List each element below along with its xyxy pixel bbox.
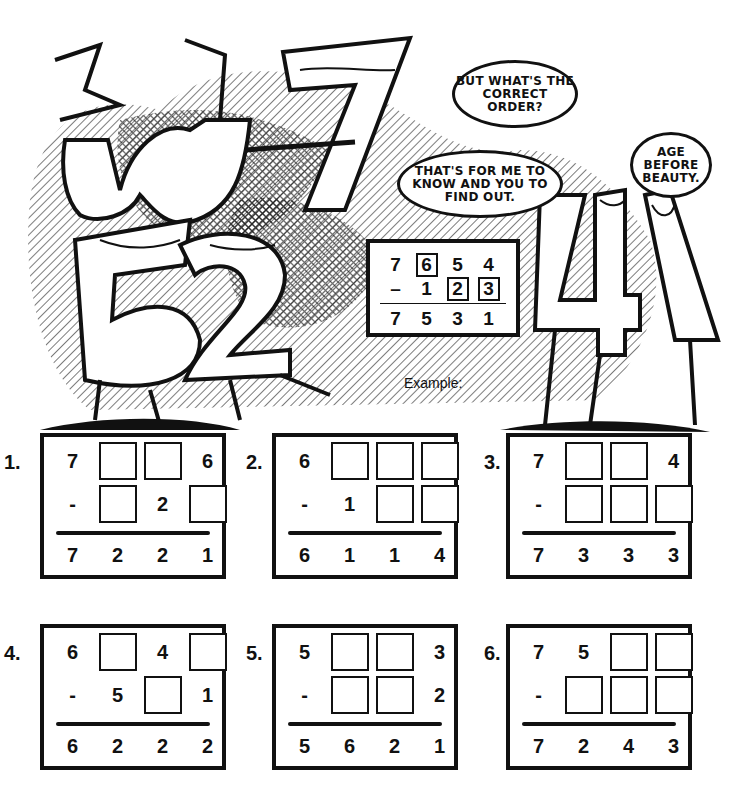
digit: 7 bbox=[516, 535, 561, 575]
puzzle-box-2: 6-16114 bbox=[272, 433, 458, 579]
blank-square[interactable] bbox=[421, 442, 459, 480]
digit: 5 bbox=[95, 675, 140, 715]
digit: 6 bbox=[50, 632, 95, 672]
answer-box[interactable] bbox=[327, 675, 372, 715]
blank-square[interactable] bbox=[376, 442, 414, 480]
digit: 7 bbox=[516, 726, 561, 766]
result-row: 7243 bbox=[516, 726, 696, 766]
blank-square[interactable] bbox=[376, 485, 414, 523]
digit: 6 bbox=[185, 441, 230, 481]
puzzle-number: 1. bbox=[4, 451, 21, 474]
result-row: 6222 bbox=[50, 726, 230, 766]
puzzle-number: 6. bbox=[484, 642, 501, 665]
answer-box[interactable] bbox=[651, 484, 696, 524]
digit: 6 bbox=[327, 726, 372, 766]
digit: 3 bbox=[651, 726, 696, 766]
blank-square[interactable] bbox=[331, 676, 369, 714]
example-digit-boxed: 2 bbox=[442, 277, 473, 301]
answer-box[interactable] bbox=[606, 441, 651, 481]
speech-bubble-correct-order: But what's the correct order? bbox=[452, 60, 578, 128]
minuend-row: 76 bbox=[50, 441, 230, 481]
answer-box[interactable] bbox=[372, 441, 417, 481]
answer-box[interactable] bbox=[606, 675, 651, 715]
blank-square[interactable] bbox=[189, 633, 227, 671]
example-row-top: 7 6 5 4 bbox=[380, 253, 506, 277]
digit: 2 bbox=[95, 726, 140, 766]
answer-box[interactable] bbox=[372, 484, 417, 524]
minuend-row: 64 bbox=[50, 632, 230, 672]
blank-square[interactable] bbox=[189, 485, 227, 523]
answer-box[interactable] bbox=[185, 484, 230, 524]
example-row-result: 7 5 3 1 bbox=[380, 307, 506, 331]
digit: 6 bbox=[282, 535, 327, 575]
blank-square[interactable] bbox=[610, 676, 648, 714]
blank-square[interactable] bbox=[421, 485, 459, 523]
blank-square[interactable] bbox=[565, 676, 603, 714]
answer-box[interactable] bbox=[417, 441, 462, 481]
digit: 4 bbox=[606, 726, 651, 766]
blank-square[interactable] bbox=[655, 633, 693, 671]
answer-box[interactable] bbox=[140, 675, 185, 715]
blank-square[interactable] bbox=[144, 442, 182, 480]
blank-square[interactable] bbox=[565, 485, 603, 523]
digit: 2 bbox=[95, 535, 140, 575]
digit: 1 bbox=[372, 535, 417, 575]
blank-square[interactable] bbox=[144, 676, 182, 714]
digit: 3 bbox=[561, 535, 606, 575]
example-digit-boxed: 3 bbox=[473, 277, 504, 301]
puzzle-box-4: 64-516222 bbox=[40, 624, 226, 770]
blank-square[interactable] bbox=[655, 485, 693, 523]
example-digit: 4 bbox=[473, 254, 504, 276]
blank-square[interactable] bbox=[376, 676, 414, 714]
answer-box[interactable] bbox=[140, 441, 185, 481]
digit: 7 bbox=[516, 632, 561, 672]
blank-square[interactable] bbox=[565, 442, 603, 480]
example-digit: 5 bbox=[442, 254, 473, 276]
blank-square[interactable] bbox=[610, 633, 648, 671]
answer-box[interactable] bbox=[417, 484, 462, 524]
blank-square[interactable] bbox=[99, 485, 137, 523]
blank-square[interactable] bbox=[655, 676, 693, 714]
blank-square[interactable] bbox=[99, 442, 137, 480]
digit: 3 bbox=[417, 632, 462, 672]
result-row: 7333 bbox=[516, 535, 696, 575]
blank-square[interactable] bbox=[331, 633, 369, 671]
minus-sign: - bbox=[282, 484, 327, 524]
puzzle-box-6: 75-7243 bbox=[506, 624, 692, 770]
answer-box[interactable] bbox=[561, 675, 606, 715]
answer-box[interactable] bbox=[95, 441, 140, 481]
blank-square[interactable] bbox=[331, 442, 369, 480]
answer-box[interactable] bbox=[95, 484, 140, 524]
digit: 2 bbox=[185, 726, 230, 766]
answer-box[interactable] bbox=[327, 632, 372, 672]
example-label: Example: bbox=[404, 375, 462, 391]
digit: 5 bbox=[561, 632, 606, 672]
answer-box[interactable] bbox=[185, 632, 230, 672]
digit: 7 bbox=[50, 535, 95, 575]
answer-box[interactable] bbox=[606, 632, 651, 672]
blank-square[interactable] bbox=[99, 633, 137, 671]
answer-box[interactable] bbox=[327, 441, 372, 481]
answer-box[interactable] bbox=[372, 632, 417, 672]
digit: 1 bbox=[417, 726, 462, 766]
digit: 4 bbox=[651, 441, 696, 481]
answer-box[interactable] bbox=[651, 632, 696, 672]
blank-square[interactable] bbox=[610, 485, 648, 523]
answer-box[interactable] bbox=[95, 632, 140, 672]
answer-box[interactable] bbox=[372, 675, 417, 715]
minus-sign: - bbox=[282, 675, 327, 715]
example-rule bbox=[380, 303, 506, 304]
blank-square[interactable] bbox=[610, 442, 648, 480]
answer-box[interactable] bbox=[561, 441, 606, 481]
blank-square[interactable] bbox=[376, 633, 414, 671]
answer-box[interactable] bbox=[651, 675, 696, 715]
answer-box[interactable] bbox=[606, 484, 651, 524]
minuend-row: 75 bbox=[516, 632, 696, 672]
digit: 4 bbox=[140, 632, 185, 672]
digit: 5 bbox=[282, 632, 327, 672]
example-digit: 5 bbox=[411, 308, 442, 330]
minus-sign: - bbox=[50, 675, 95, 715]
minuend-row: 74 bbox=[516, 441, 696, 481]
answer-box[interactable] bbox=[561, 484, 606, 524]
minuend-row: 53 bbox=[282, 632, 462, 672]
